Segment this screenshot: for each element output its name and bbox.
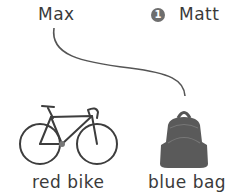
caption-blue-bag: blue bag [148,172,226,192]
caption-red-bike: red bike [32,172,104,192]
backpack-icon [0,0,230,196]
